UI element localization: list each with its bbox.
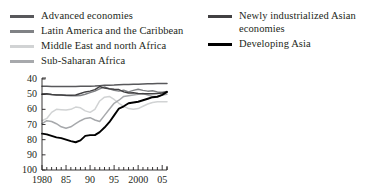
series-line bbox=[42, 92, 167, 142]
series-line bbox=[42, 84, 167, 87]
line-swatch-icon bbox=[10, 60, 34, 63]
legend-entry-label: Middle East and north Africa bbox=[41, 40, 166, 53]
line-swatch-icon bbox=[10, 30, 34, 33]
legend-column-left: Advanced economiesLatin America and the … bbox=[10, 10, 206, 70]
legend-entry-label: Sub-Saharan Africa bbox=[41, 55, 125, 68]
legend-entry[interactable]: Latin America and the Caribbean bbox=[10, 25, 206, 38]
legend-column-right: Newly industrialized Asian economiesDeve… bbox=[208, 10, 363, 53]
legend-entry[interactable]: Developing Asia bbox=[208, 38, 363, 51]
legend-entry-label: Developing Asia bbox=[239, 38, 311, 51]
legend-entry-label: Advanced economies bbox=[41, 10, 133, 23]
cropped-title-remnant bbox=[0, 0, 366, 7]
legend-entry-label: Latin America and the Caribbean bbox=[41, 25, 183, 38]
line-swatch-icon bbox=[10, 15, 34, 18]
line-swatch-icon bbox=[208, 15, 232, 18]
chart-legend: Advanced economiesLatin America and the … bbox=[0, 10, 366, 68]
y-axis-tick-label: 40 bbox=[17, 74, 37, 84]
legend-entry[interactable]: Advanced economies bbox=[10, 10, 206, 23]
legend-entry-label: Newly industrialized Asian economies bbox=[239, 10, 363, 35]
plot-area: 1009080706050401980859095200005 bbox=[0, 68, 200, 192]
legend-entry[interactable]: Newly industrialized Asian economies bbox=[208, 10, 363, 35]
series-line bbox=[42, 96, 167, 120]
figure-line-chart: Advanced economiesLatin America and the … bbox=[0, 0, 366, 192]
y-axis-tick-label: 90 bbox=[17, 150, 37, 160]
legend-entry[interactable]: Sub-Saharan Africa bbox=[10, 55, 206, 68]
line-swatch-icon bbox=[208, 43, 232, 46]
line-swatch-icon bbox=[10, 45, 34, 48]
x-axis-tick-label: 05 bbox=[145, 175, 179, 185]
series-group bbox=[42, 84, 167, 143]
y-axis-tick-label: 50 bbox=[17, 89, 37, 99]
y-axis-tick-label: 60 bbox=[17, 104, 37, 114]
legend-entry[interactable]: Middle East and north Africa bbox=[10, 40, 206, 53]
y-axis-tick-label: 80 bbox=[17, 135, 37, 145]
y-axis-tick-label: 70 bbox=[17, 120, 37, 130]
